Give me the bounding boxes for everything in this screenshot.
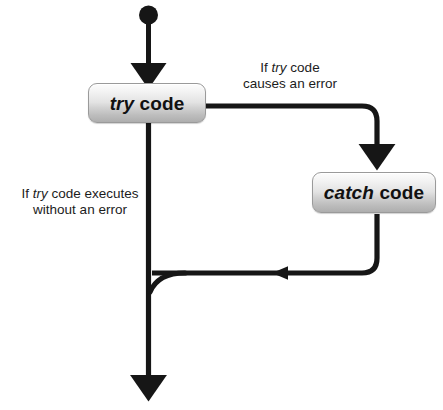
connector-try-to-catch <box>206 106 377 155</box>
edge-label-error-line1-pre: If <box>260 60 271 75</box>
node-catch-keyword: catch <box>324 182 374 203</box>
node-try-keyword: try <box>110 93 135 114</box>
edge-label-error-line1: If try code <box>231 60 349 76</box>
node-try-code[interactable]: try code <box>88 83 206 123</box>
connector-merge-junction <box>150 273 185 292</box>
edge-label-error-keyword: try <box>272 60 287 75</box>
edge-label-success-keyword: try <box>33 186 48 201</box>
edge-label-error-line2: causes an error <box>231 76 349 92</box>
node-catch-code[interactable]: catch code <box>312 172 436 213</box>
edge-label-error-line1-post: code <box>287 60 320 75</box>
return-arrowhead-icon <box>272 266 288 280</box>
start-node-dot <box>139 6 158 25</box>
node-catch-rest: code <box>374 182 424 203</box>
edge-label-success-branch: If try code executes without an error <box>12 186 148 218</box>
connector-catch-return <box>152 214 377 273</box>
node-catch-code-label: catch code <box>324 183 424 202</box>
edge-label-success-line2: without an error <box>12 202 148 218</box>
edge-label-success-line1-pre: If <box>21 186 32 201</box>
diagram-canvas: try code catch code If try code causes a… <box>0 0 443 410</box>
edge-label-success-line1-post: code executes <box>48 186 139 201</box>
edge-label-success-line1: If try code executes <box>12 186 148 202</box>
edge-label-error-branch: If try code causes an error <box>231 60 349 92</box>
node-try-rest: code <box>134 93 184 114</box>
node-try-code-label: try code <box>110 94 185 113</box>
